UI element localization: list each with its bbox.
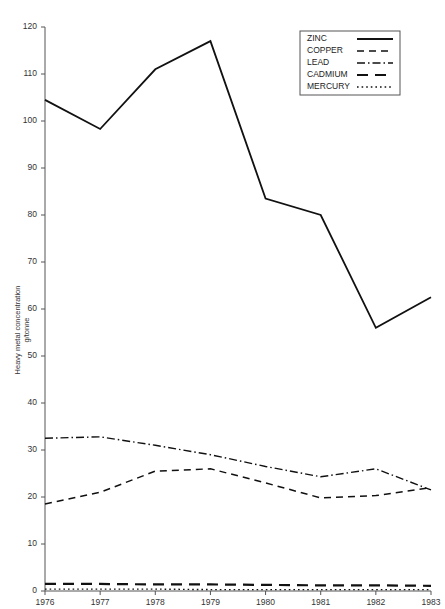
y-axis-title-line1: Heavy metal concentration xyxy=(13,286,22,375)
y-tick-label: 30 xyxy=(28,444,38,454)
series-line-cadmium xyxy=(45,584,431,586)
series-line-lead xyxy=(45,437,431,490)
y-tick-label: 50 xyxy=(28,350,38,360)
line-chart: 0102030405060708090100110120 19761977197… xyxy=(0,0,445,609)
y-tick-label: 110 xyxy=(23,68,37,78)
x-tick-label: 1978 xyxy=(146,597,165,607)
y-tick-label: 0 xyxy=(32,585,37,595)
y-tick-label: 70 xyxy=(28,256,38,266)
y-tick-label: 90 xyxy=(28,162,38,172)
legend-label-copper: COPPER xyxy=(307,45,343,55)
y-tick-label: 60 xyxy=(28,303,38,313)
legend-label-zinc: ZINC xyxy=(307,33,327,43)
x-tick-label: 1977 xyxy=(91,597,110,607)
legend-label-lead: LEAD xyxy=(307,57,329,67)
x-tick-label: 1976 xyxy=(36,597,55,607)
y-axis: 0102030405060708090100110120 xyxy=(23,21,45,595)
x-tick-label: 1982 xyxy=(366,597,385,607)
x-tick-label: 1979 xyxy=(201,597,220,607)
y-tick-label: 80 xyxy=(28,209,38,219)
y-tick-label: 100 xyxy=(23,115,37,125)
x-tick-label: 1980 xyxy=(256,597,275,607)
legend-label-cadmium: CADMIUM xyxy=(307,69,348,79)
series-line-copper xyxy=(45,469,431,504)
y-tick-label: 120 xyxy=(23,21,37,31)
x-axis: 19761977197819791980198119821983 xyxy=(36,591,441,607)
data-series-group xyxy=(45,41,431,589)
y-tick-label: 40 xyxy=(28,397,38,407)
chart-legend: ZINCCOPPERLEADCADMIUMMERCURY xyxy=(300,31,400,95)
x-tick-label: 1983 xyxy=(422,597,441,607)
y-axis-title-line2: g/tonne xyxy=(22,317,31,342)
y-tick-label: 10 xyxy=(28,538,38,548)
x-tick-label: 1981 xyxy=(311,597,330,607)
y-tick-label: 20 xyxy=(28,491,38,501)
legend-label-mercury: MERCURY xyxy=(307,81,350,91)
chart-container: 0102030405060708090100110120 19761977197… xyxy=(0,0,445,609)
